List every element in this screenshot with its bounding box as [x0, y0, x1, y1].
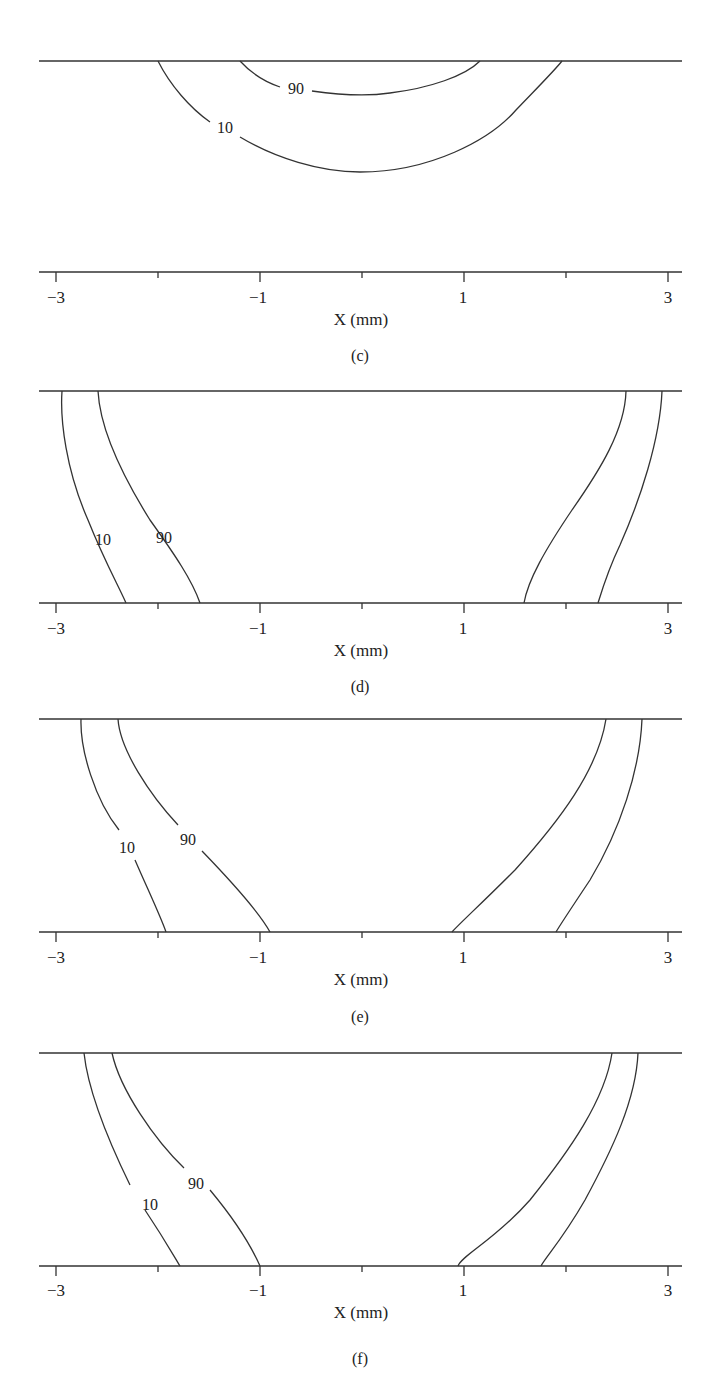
x-tick-label: 1	[459, 288, 468, 307]
panel-caption: (f)	[352, 1350, 368, 1368]
x-axis-ticks	[56, 1266, 668, 1276]
x-tick-label: 3	[664, 288, 673, 307]
x-tick-label: 3	[664, 619, 673, 638]
contour-10-right	[598, 391, 662, 603]
panel-e: −3 −1 1 3 X (mm) (e) 10 90	[39, 719, 682, 1026]
x-axis-title: X (mm)	[334, 641, 388, 660]
contour-10-left	[81, 719, 166, 932]
x-tick-label: −3	[47, 948, 65, 967]
panel-f: −3 −1 1 3 X (mm) (f) 10 90	[39, 1053, 682, 1368]
contour-label-10: 10	[217, 119, 233, 136]
contour-10-left	[84, 1053, 180, 1266]
panel-caption: (d)	[351, 678, 370, 696]
panel-caption: (c)	[351, 347, 369, 365]
contour-90-left	[112, 1053, 260, 1266]
contour-label-90: 90	[180, 831, 196, 848]
x-axis-ticks	[56, 603, 668, 613]
x-axis-ticks	[56, 272, 668, 282]
contour-90	[240, 61, 480, 95]
panel-d: −3 −1 1 3 X (mm) (d) 10 90	[39, 391, 682, 696]
contour-90-right	[458, 1053, 612, 1266]
contour-10-right	[541, 1053, 638, 1266]
contour-label-10: 10	[119, 839, 135, 856]
contour-label-90: 90	[288, 80, 304, 97]
x-tick-label: −3	[47, 288, 65, 307]
panel-caption: (e)	[351, 1008, 369, 1026]
panel-c: −3 −1 1 3 X (mm) (c) 10 90	[39, 61, 682, 365]
x-tick-label: 1	[459, 948, 468, 967]
x-tick-label: −3	[47, 1281, 65, 1300]
x-axis-ticks	[56, 932, 668, 942]
contour-10-right	[556, 719, 642, 932]
x-tick-label: −1	[249, 619, 267, 638]
contour-10	[158, 61, 562, 172]
x-tick-label: −1	[249, 948, 267, 967]
contour-90-right	[524, 391, 626, 603]
x-tick-label: 3	[664, 1281, 673, 1300]
contour-label-90: 90	[188, 1175, 204, 1192]
contour-90-right	[452, 719, 606, 932]
figure-canvas: −3 −1 1 3 X (mm) (c) 10 90 −3 −1 1 3 X (…	[0, 0, 718, 1395]
x-axis-title: X (mm)	[334, 970, 388, 989]
x-tick-label: 3	[664, 948, 673, 967]
contour-label-10: 10	[142, 1196, 158, 1213]
contour-10-left	[62, 391, 126, 603]
contour-90-left	[118, 719, 270, 932]
contour-label-90: 90	[156, 529, 172, 546]
contour-90-left	[98, 391, 200, 603]
x-tick-label: −1	[249, 1281, 267, 1300]
x-tick-label: 1	[459, 619, 468, 638]
x-tick-label: −1	[249, 288, 267, 307]
x-axis-title: X (mm)	[334, 310, 388, 329]
x-tick-label: 1	[459, 1281, 468, 1300]
x-tick-label: −3	[47, 619, 65, 638]
contour-label-10: 10	[95, 531, 111, 548]
x-axis-title: X (mm)	[334, 1303, 388, 1322]
